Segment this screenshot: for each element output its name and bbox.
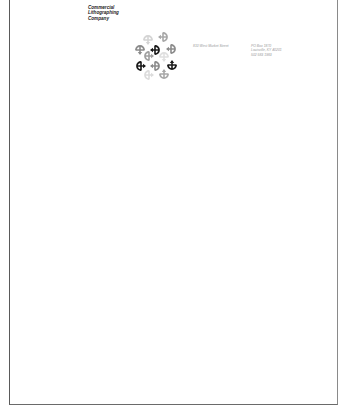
arrow-glyph-icon — [144, 36, 153, 45]
arrow-glyph-icon — [158, 33, 167, 42]
arrow-rosette-icon — [131, 30, 181, 80]
street-line: 810 West Market Street — [193, 44, 229, 48]
street-address: 810 West Market Street — [193, 44, 229, 48]
arrow-glyph-icon — [160, 69, 169, 78]
arrow-glyph-icon — [150, 62, 159, 71]
arrow-glyph-icon — [136, 46, 145, 55]
mailing-address: PO Box 1870 Louisville, KY 40201 502 583… — [251, 44, 282, 57]
company-name-line-3: Company — [88, 16, 119, 21]
arrow-glyph-icon — [150, 46, 159, 55]
phone-line: 502 583 1983 — [251, 53, 282, 57]
arrow-glyph-icon — [145, 52, 154, 61]
company-name: Commercial Lithographing Company — [88, 5, 119, 21]
arrow-glyph-icon — [168, 60, 177, 69]
arrow-glyph-icon — [160, 53, 169, 62]
arrow-glyph-icon — [166, 45, 175, 54]
arrow-glyph-icon — [145, 71, 154, 80]
arrow-glyph-icon — [137, 62, 146, 71]
